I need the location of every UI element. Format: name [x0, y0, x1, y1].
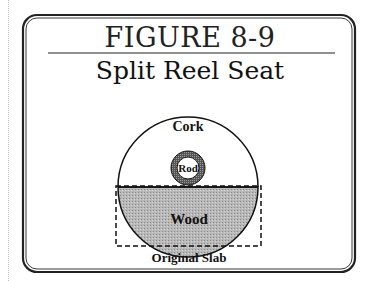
figure-number: FIGURE 8-9 — [105, 22, 276, 53]
rod-label: Rod — [178, 162, 198, 174]
figure-title: Split Reel Seat — [96, 56, 284, 85]
slab-label: Original Slab — [152, 250, 227, 265]
wood-label: Wood — [170, 211, 208, 227]
figure-diagram: FIGURE 8-9 Split Reel Seat Cork Rod Wood… — [0, 0, 376, 281]
cork-label: Cork — [172, 119, 203, 134]
